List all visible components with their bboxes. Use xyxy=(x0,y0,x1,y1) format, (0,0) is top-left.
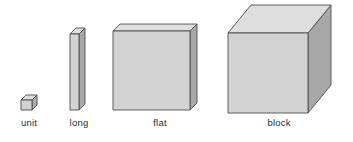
block-flat-side-face xyxy=(190,24,197,110)
block-long xyxy=(70,28,85,110)
base-ten-blocks-figure: unitlongflatblock xyxy=(0,0,353,142)
block-flat-front-face xyxy=(113,31,190,110)
block-unit-front-face xyxy=(21,100,32,110)
block-block-front-face xyxy=(228,33,308,113)
block-block xyxy=(228,5,331,113)
block-label-unit: unit xyxy=(21,117,37,128)
block-long-front-face xyxy=(70,34,79,110)
block-long-side-face xyxy=(79,28,85,110)
block-flat-top-face xyxy=(113,24,197,31)
block-label-long: long xyxy=(70,117,89,128)
block-unit xyxy=(21,95,37,110)
blocks-diagram-svg: unitlongflatblock xyxy=(0,0,353,142)
block-label-block: block xyxy=(267,117,290,128)
block-flat xyxy=(113,24,197,110)
block-label-flat: flat xyxy=(153,117,167,128)
labels-group: unitlongflatblock xyxy=(21,117,291,128)
blocks-group xyxy=(21,5,331,113)
